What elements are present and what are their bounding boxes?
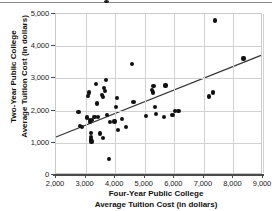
data-point bbox=[153, 105, 157, 109]
y-tick-mark bbox=[51, 142, 55, 143]
y-tick-mark bbox=[51, 174, 55, 175]
x-tick-mark bbox=[55, 174, 56, 178]
x-gridline bbox=[115, 14, 116, 173]
y-tick-label: 5,000 bbox=[0, 9, 49, 18]
data-point bbox=[151, 84, 155, 88]
x-gridline bbox=[263, 14, 264, 173]
data-point bbox=[76, 110, 80, 114]
x-tick-mark bbox=[173, 174, 174, 178]
data-point bbox=[207, 94, 211, 98]
x-gridline bbox=[204, 14, 205, 173]
x-gridline bbox=[145, 14, 146, 173]
scatter-plot-figure: Four-Year Public College Average Tuition… bbox=[0, 0, 272, 210]
x-gridline bbox=[233, 14, 234, 173]
cropped-title-rule bbox=[0, 2, 272, 3]
data-point bbox=[241, 56, 245, 60]
plot-area bbox=[55, 13, 262, 174]
x-axis-title: Four-Year Public College Average Tuition… bbox=[40, 189, 272, 210]
x-tick-mark bbox=[262, 174, 263, 178]
x-tick-mark bbox=[144, 174, 145, 178]
x-tick-mark bbox=[114, 174, 115, 178]
y-gridline bbox=[56, 46, 261, 47]
data-point bbox=[103, 89, 107, 93]
x-tick-label: 9,000 bbox=[245, 179, 272, 188]
data-point bbox=[151, 90, 155, 94]
y-tick-label: 0 bbox=[0, 170, 49, 179]
x-axis-title-line1: Four-Year Public College bbox=[40, 189, 272, 200]
data-point bbox=[116, 128, 120, 132]
y-tick-mark bbox=[51, 13, 55, 14]
data-point bbox=[154, 112, 158, 116]
data-point bbox=[112, 119, 116, 123]
data-point bbox=[131, 100, 135, 104]
x-tick-mark bbox=[232, 174, 233, 178]
data-point bbox=[105, 113, 109, 117]
cropped-title-glyph bbox=[104, 0, 109, 3]
y-tick-label: 1,000 bbox=[0, 138, 49, 147]
y-gridline bbox=[56, 143, 261, 144]
data-point bbox=[163, 83, 167, 87]
data-point bbox=[170, 113, 174, 117]
x-axis-title-line2: Average Tuition Cost (in dollars) bbox=[40, 200, 272, 211]
y-tick-label: 3,000 bbox=[0, 73, 49, 82]
data-point bbox=[176, 109, 180, 113]
data-point bbox=[80, 125, 84, 129]
y-gridline bbox=[56, 111, 261, 112]
x-tick-mark bbox=[85, 174, 86, 178]
y-tick-mark bbox=[51, 77, 55, 78]
x-tick-mark bbox=[203, 174, 204, 178]
data-point bbox=[213, 18, 217, 22]
data-point bbox=[95, 101, 99, 105]
y-tick-label: 4,000 bbox=[0, 41, 49, 50]
data-point bbox=[87, 90, 91, 94]
y-gridline bbox=[56, 78, 261, 79]
x-gridline bbox=[174, 14, 175, 173]
y-tick-mark bbox=[51, 45, 55, 46]
data-point bbox=[89, 139, 93, 143]
data-point bbox=[162, 115, 166, 119]
data-point bbox=[104, 78, 108, 82]
y-tick-mark bbox=[51, 110, 55, 111]
data-point bbox=[107, 157, 111, 161]
data-point bbox=[94, 82, 98, 86]
y-tick-label: 2,000 bbox=[0, 106, 49, 115]
